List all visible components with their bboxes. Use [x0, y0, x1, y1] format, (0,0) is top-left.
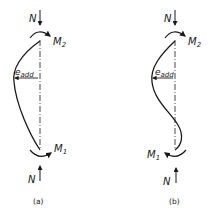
- moment-bottom-label: M1: [147, 149, 160, 162]
- moment-bottom-arc: [165, 150, 186, 156]
- eccentricity-label: eadd: [155, 67, 174, 79]
- deflected-shape: [152, 41, 182, 150]
- axial-force-top-label: N: [164, 13, 172, 24]
- axial-force-top-label: N: [29, 13, 37, 24]
- moment-bottom-label: M1: [54, 143, 67, 156]
- panel-a: eadd N M2 M1 N (a): [14, 10, 67, 206]
- column-deflection-diagram: eadd N M2 M1 N (a) eadd N: [0, 0, 214, 222]
- moment-top-arc: [30, 32, 50, 38]
- panel-b-caption: (b): [169, 197, 180, 206]
- moment-top-arc: [165, 32, 185, 38]
- panel-b: eadd N M2 M1 N (b): [147, 10, 202, 206]
- moment-bottom-arc: [30, 150, 51, 156]
- axial-force-bottom-label: N: [163, 176, 171, 187]
- axial-force-bottom-label: N: [28, 174, 36, 185]
- deflected-shape: [14, 41, 40, 150]
- moment-top-label: M2: [188, 36, 202, 49]
- moment-top-label: M2: [53, 36, 67, 49]
- eccentricity-label: eadd: [15, 67, 34, 79]
- panel-a-caption: (a): [33, 197, 44, 206]
